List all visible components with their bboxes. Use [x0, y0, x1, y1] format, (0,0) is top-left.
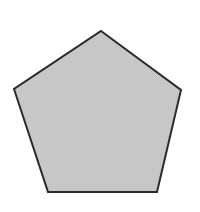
image-canvas — [0, 0, 200, 212]
pentagon-svg-canvas — [0, 0, 200, 212]
